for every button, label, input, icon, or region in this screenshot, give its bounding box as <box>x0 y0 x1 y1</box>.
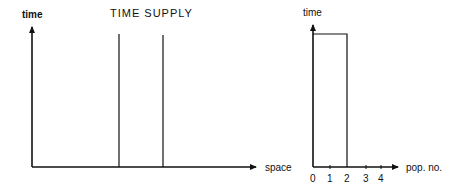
tick-2: 2 <box>344 173 350 184</box>
left-panel: time TIME SUPPLY space <box>22 7 292 173</box>
tick-1: 1 <box>327 173 333 184</box>
left-x-label: space <box>265 162 292 173</box>
right-y-label: time <box>303 7 322 18</box>
tick-3: 3 <box>363 173 369 184</box>
supply-rectangle <box>313 34 347 167</box>
tick-0: 0 <box>310 173 316 184</box>
right-panel: time pop. no. 0 1 2 3 4 <box>303 7 442 184</box>
time-supply-diagram: time TIME SUPPLY space time pop. no. 0 1… <box>0 0 463 190</box>
right-x-label: pop. no. <box>406 162 442 173</box>
tick-4: 4 <box>378 173 384 184</box>
diagram-title: TIME SUPPLY <box>110 7 193 19</box>
left-y-label: time <box>22 9 43 20</box>
